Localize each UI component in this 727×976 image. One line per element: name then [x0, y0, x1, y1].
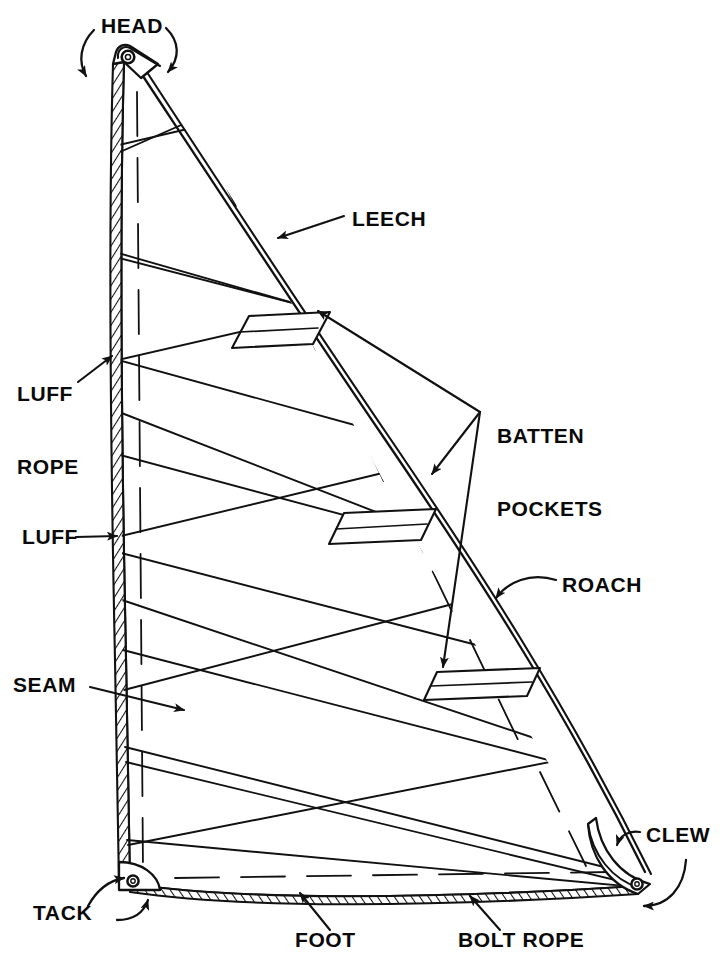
label-batten-pockets-line1: BATTEN: [497, 424, 603, 448]
seam-pointer: [90, 687, 184, 710]
luff-pointer: [76, 536, 117, 537]
label-tack: TACK: [33, 901, 92, 925]
roach-pointer: [496, 577, 556, 598]
luff-rope-band: [111, 62, 130, 884]
batten-pocket-1: [232, 312, 330, 348]
label-luff-rope-line2: ROPE: [17, 455, 79, 479]
label-luff-rope: LUFF ROPE: [17, 333, 79, 528]
label-leech: LEECH: [352, 207, 426, 231]
bolt-rope-band: [130, 884, 638, 904]
batten-pocket-2: [329, 509, 436, 544]
label-batten-pockets: BATTEN POCKETS: [497, 375, 603, 570]
label-bolt-rope: BOLT ROPE: [458, 928, 584, 952]
label-luff-rope-line1: LUFF: [17, 382, 79, 406]
tack-corner: [119, 862, 160, 890]
label-clew: CLEW: [646, 823, 710, 847]
batten-pockets-pointer: [318, 311, 480, 667]
sail-drawing: [0, 0, 727, 976]
label-roach: ROACH: [562, 573, 642, 597]
label-batten-pockets-line2: POCKETS: [497, 497, 603, 521]
label-foot: FOOT: [295, 928, 356, 952]
luff-rope-pointer: [78, 356, 112, 382]
sail-diagram-page: HEAD LEECH LUFF ROPE BATTEN POCKETS LUFF…: [0, 0, 727, 976]
label-luff: LUFF: [22, 525, 78, 549]
leech-pointer: [278, 216, 344, 238]
batten-pocket-3: [424, 668, 540, 700]
label-seam: SEAM: [13, 673, 76, 697]
label-head: HEAD: [101, 14, 163, 38]
